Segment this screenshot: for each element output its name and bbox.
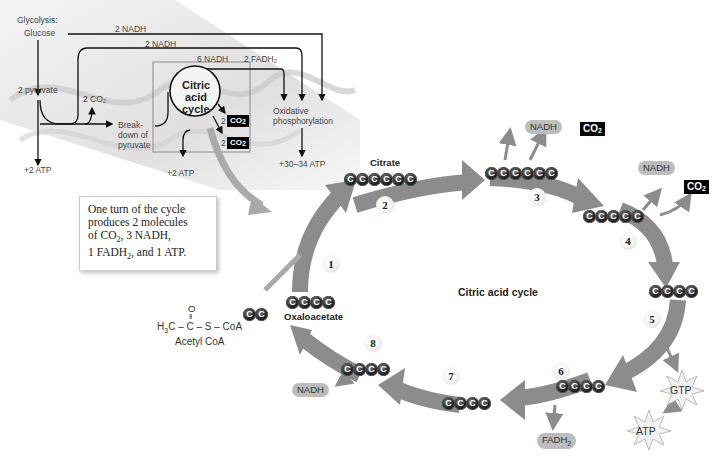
pyruvate-label: 2 pyruvate [18,86,58,95]
step-6-marker: 6 [552,362,570,380]
acetyl-formula: H3C – C – S – CoA [157,322,242,334]
oxaloacetate-carbons: CCCC [286,296,334,309]
co2-breakdown-label: 2 CO₂ [83,95,106,104]
nadh-breakdown-label: 2 NADH [145,40,176,49]
co2-out-a-count: 2 [221,117,226,126]
cycle-overview-label-2: acid [185,92,207,103]
citrate-label: Citrate [370,158,400,168]
note-line-3: of CO2, 3 NADH, [88,229,208,246]
citrate-carbons: CCCCCC [344,173,416,186]
cycle-title: Citric acid cycle [458,287,538,298]
acetyl-coa-label: Acetyl CoA [175,337,224,347]
cycle-overview-label-3: cycle [182,104,210,115]
glycolysis-label: Glycolysis: [17,16,58,25]
nadh-cycle-label: 6 NADH [197,55,228,64]
step-2-marker: 2 [376,196,394,214]
step6-fadh2-product: FADH2 [537,433,576,449]
step4-co2-product: CO2 [684,180,709,194]
oxphos-label-2: phosphorylation [273,117,333,126]
fadh2-cycle-label: 2 FADH₂ [244,55,277,64]
co2-out-b-box: CO2 [227,137,249,149]
acetyl-carbons: CC [243,308,267,321]
step-4-marker: 4 [619,232,637,250]
atp-product: ATP [636,425,656,437]
acetyl-double-bond: ‖ [189,313,192,321]
five-carbon-carbons: CCCCC [583,210,643,223]
four-carbon-step7-carbons: CCCC [442,397,490,410]
step-5-marker: 5 [643,310,661,328]
four-carbon-step8-carbons: CCCC [341,363,389,376]
carbon-atom: C [322,296,335,309]
cycle-overview-label-1: Citric [182,80,210,91]
step3-nadh-product: NADH [525,120,562,134]
note-line-4: 1 FADH2, and 1 ATP. [88,246,208,263]
gtp-product: GTP [670,384,692,396]
co2-out-a-box: CO2 [227,115,249,127]
atp-oxphos-label: +30–34 ATP [279,160,325,169]
carbon-atom: C [255,308,268,321]
oxaloacetate-label: Oxaloacetate [284,312,343,322]
glucose-label: Glucose [24,29,55,38]
citric-acid-cycle-figure: Glycolysis: Glucose 2 NADH 2 NADH 6 NADH… [0,0,718,459]
breakdown-label-2: down of [118,131,148,140]
note-line-2: produces 2 molecules [88,216,208,229]
step-1-marker: 1 [322,255,340,273]
isocitrate-carbons: CCCCCC [485,167,557,180]
note-line-1: One turn of the cycle [88,203,208,216]
breakdown-label-1: Break- [118,121,143,130]
step-3-marker: 3 [528,188,546,206]
nadh-glycolysis-label: 2 NADH [115,25,146,34]
step-7-marker: 7 [442,367,460,385]
oxphos-label-1: Oxidative [273,107,308,116]
four-carbon-step5-carbons: CCCC [649,285,697,298]
step3-co2-product: CO2 [580,122,605,136]
breakdown-label-3: pyruvate [118,141,151,150]
summary-note: One turn of the cycle produces 2 molecul… [79,196,217,271]
atp-glycolysis-label: +2 ATP [24,166,51,175]
co2-out-b-count: 2 [221,139,226,148]
four-carbon-step6-carbons: CCCC [556,380,604,393]
atp-cycle-label: +2 ATP [167,169,194,178]
step-8-marker: 8 [364,334,382,352]
step4-nadh-product: NADH [638,161,675,175]
step8-nadh-product: NADH [292,383,329,397]
